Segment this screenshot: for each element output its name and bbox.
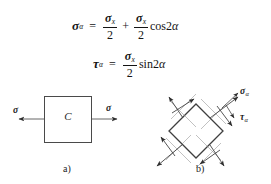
figure-b-face-guide-lines [166, 94, 226, 168]
figure-b-sigma-alpha-leader [222, 93, 238, 108]
tau-alpha-subscript: α [99, 60, 103, 69]
figure-a-left-stress-label: σ [13, 105, 18, 115]
figure-b-upper-left-shear-arrow [172, 99, 194, 113]
equals-sign: = [89, 19, 96, 34]
figure-b-element-square [169, 104, 223, 158]
fraction-numerator: σx [134, 12, 148, 27]
tau-subscript: α [245, 116, 248, 123]
angle-alpha: α [159, 57, 165, 71]
figure-b-shear-stress-label: τα [240, 112, 248, 123]
sine-term: sin2α [139, 57, 165, 72]
figure-b-upper-right-shear-arrow [217, 106, 232, 126]
fraction-denominator: 2 [125, 66, 135, 79]
figure-b-upper-right-normal-arrow [210, 97, 238, 118]
stress-transformation-figure: σα = σx 2 + σx 2 cos2α τα = σx 2 sin2α C [0, 0, 271, 184]
fraction-sigma-x-over-2-second: σx 2 [134, 12, 148, 41]
sigma-subscript: α [245, 90, 248, 97]
figure-b-lower-left-shear-arrow [161, 137, 175, 156]
equals-sign: = [109, 57, 116, 72]
tau-alpha-symbol: τ [93, 56, 99, 72]
figure-b-tau-alpha-leader [226, 105, 234, 118]
sigma-alpha-subscript: α [79, 22, 83, 31]
fraction-numerator: σx [123, 50, 137, 65]
normal-stress-equation: σα = σx 2 + σx 2 cos2α [72, 12, 178, 41]
sigma-alpha-symbol: σ [72, 18, 79, 34]
numerator-subscript: x [112, 17, 115, 26]
angle-alpha: α [172, 19, 178, 33]
shear-stress-equation: τα = σx 2 sin2α [93, 50, 165, 79]
fraction-sigma-x-over-2: σx 2 [103, 12, 117, 41]
fraction-numerator: σx [103, 12, 117, 27]
numerator-subscript: x [132, 55, 135, 64]
fraction-sigma-x-over-2: σx 2 [123, 50, 137, 79]
figure-b-normal-stress-label: σα [240, 86, 249, 97]
figure-b-lower-right-shear-arrow [200, 150, 220, 164]
figure-b-lower-right-normal-arrow [210, 145, 224, 166]
plus-operator: + [122, 19, 129, 34]
numerator-subscript: x [143, 17, 146, 26]
cosine-term: cos2α [150, 19, 178, 34]
figure-a-caption: a) [63, 163, 71, 174]
figure-a-right-stress-label: σ [106, 103, 111, 113]
figure-a-center-label: C [44, 110, 92, 122]
fraction-denominator: 2 [105, 28, 115, 41]
figure-b-lower-left-normal-arrow [157, 145, 182, 166]
tau-symbol: τ [240, 112, 244, 122]
figure-b-caption: b) [196, 163, 204, 174]
fraction-denominator: 2 [136, 28, 146, 41]
figure-b-upper-left-normal-arrow [169, 97, 183, 118]
